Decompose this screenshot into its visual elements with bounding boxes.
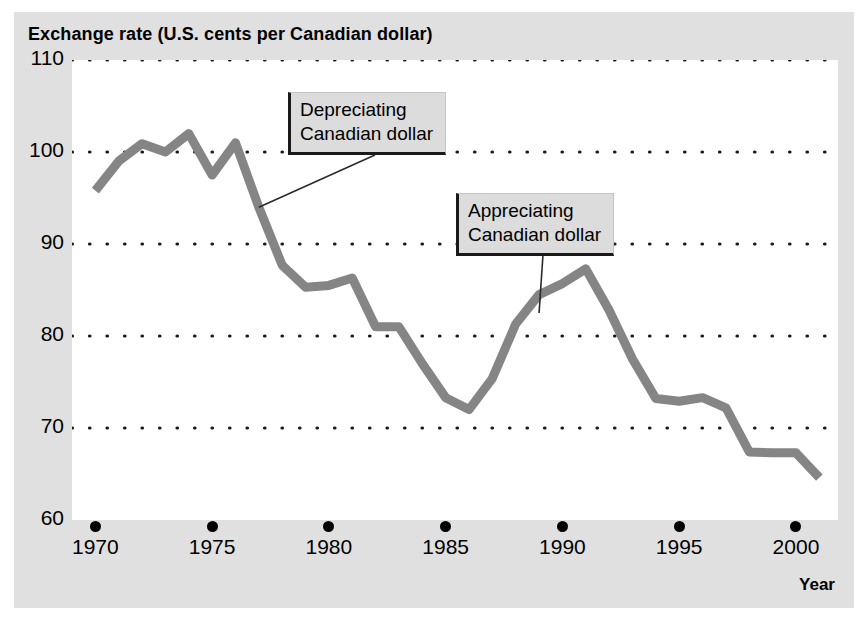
annotation-line-2: Canadian dollar [300,122,433,146]
annotation-depreciating-canadian-dollar: Depreciating Canadian dollar [288,92,446,155]
annotation-line-2: Canadian dollar [468,223,601,247]
x-axis-title: Year [799,575,835,595]
annotation-line-1: Depreciating [300,98,433,122]
x-axis-tick-label: 2000 [751,535,841,559]
x-axis-tick-marker [323,521,334,532]
x-axis-tick-marker [557,521,568,532]
x-axis-tick-marker [790,521,801,532]
x-axis-tick-label: 1970 [50,535,140,559]
x-axis-tick-label: 1975 [167,535,257,559]
x-axis-tick-marker [674,521,685,532]
chart-figure: Exchange rate (U.S. cents per Canadian d… [0,0,865,624]
x-axis-tick-label: 1980 [284,535,374,559]
x-axis-tick-label: 1985 [401,535,491,559]
annotation-line-1: Appreciating [468,199,601,223]
x-axis-tick-marker [207,521,218,532]
annotation-appreciating-canadian-dollar: Appreciating Canadian dollar [456,193,614,256]
x-axis-tick-marker [440,521,451,532]
x-axis-tick-label: 1995 [634,535,724,559]
x-axis-tick-marker [90,521,101,532]
x-axis-tick-label: 1990 [517,535,607,559]
